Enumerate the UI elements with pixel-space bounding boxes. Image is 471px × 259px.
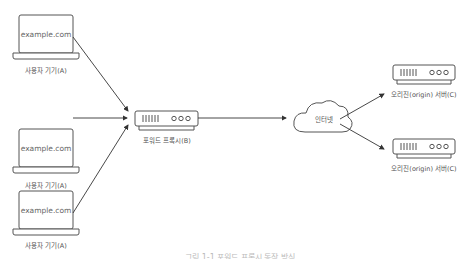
origin-server-label: 오리진(origin) 서버(C): [380, 163, 468, 173]
device-label: 사용자 기기(A): [4, 180, 88, 190]
device-label: 사용자 기기(A): [4, 65, 88, 75]
proxy-label: 포워드 프록시(B): [126, 135, 208, 145]
origin-server-label: 오리진(origin) 서버(C): [380, 89, 468, 99]
origin-server-icon: [393, 139, 455, 158]
device-screen-url: example.com: [19, 206, 73, 215]
device-screen-url: example.com: [19, 144, 73, 153]
device-screen-url: example.com: [19, 30, 73, 39]
internet-label: 인터넷: [300, 114, 348, 124]
device-label: 사용자 기기(A): [4, 240, 88, 250]
origin-server-icon: [393, 65, 455, 84]
figure-caption: 그림 1-1 포워드 프록시 동작 방식: [160, 251, 320, 259]
proxy-server-icon: [135, 111, 198, 130]
